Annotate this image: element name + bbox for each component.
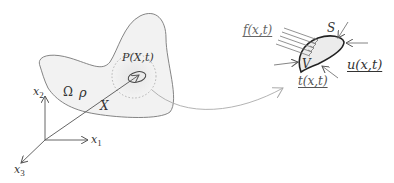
- traction-label: t(x,t): [298, 75, 328, 87]
- axis-x3: [21, 140, 45, 163]
- axis-x3-label: x3: [14, 164, 25, 178]
- diagram-canvas: Ω ρ P(X,t) X x2 x1 x3 S V f(x,t) t(x,t) …: [0, 0, 394, 183]
- traction-arrow-top: [338, 22, 348, 38]
- traction-arrow-left: [274, 62, 298, 65]
- axis-x2-subscript: 2: [39, 90, 44, 100]
- displacement-label: u(x,t): [347, 58, 382, 71]
- volume-label: V: [302, 58, 311, 70]
- point-label: P(X,t): [122, 52, 154, 63]
- density-label: ρ: [79, 86, 87, 99]
- body-force-label: f(x,t): [243, 24, 272, 36]
- axis-x3-subscript: 3: [20, 168, 25, 178]
- surface-label: S: [327, 22, 335, 34]
- position-vector-label: X: [100, 100, 109, 112]
- axis-x1-subscript: 1: [97, 138, 102, 148]
- axis-x1-label: x1: [91, 134, 102, 148]
- axis-x2-label: x2: [33, 86, 44, 100]
- domain-label: Ω: [63, 86, 73, 98]
